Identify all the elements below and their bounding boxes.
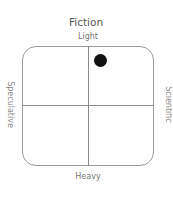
- axis-label-bottom: Heavy: [0, 172, 172, 181]
- vertical-axis-line: [88, 46, 89, 166]
- axis-label-right: Scientific: [164, 75, 173, 135]
- axis-label-left: Speculative: [6, 75, 15, 135]
- position-marker-dot[interactable]: [94, 54, 107, 67]
- axis-label-top: Light: [0, 32, 172, 41]
- diagram-title: Fiction: [0, 16, 172, 28]
- horizontal-axis-line: [22, 105, 154, 106]
